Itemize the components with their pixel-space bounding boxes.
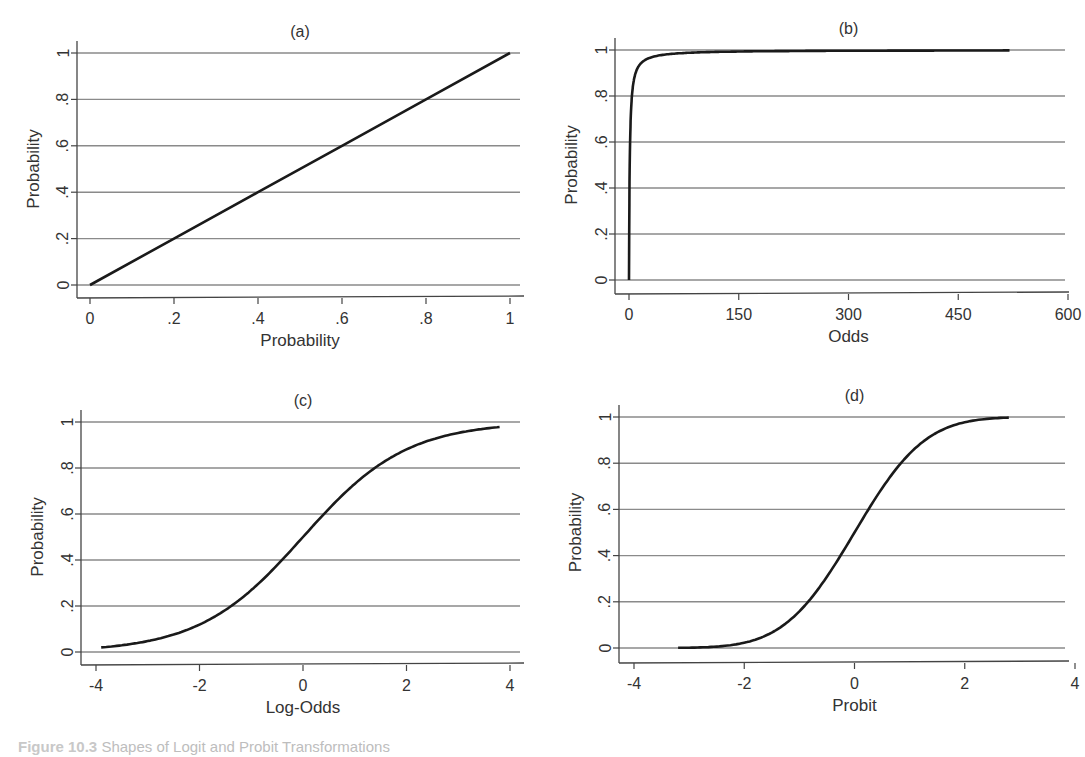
- x-tick-label: 0: [86, 310, 95, 327]
- x-tick-label: 0: [850, 675, 859, 692]
- x-axis: [615, 292, 1069, 294]
- x-tick-label: -4: [89, 677, 103, 694]
- x-axis-label: Probit: [832, 696, 877, 715]
- y-tick-label: .2: [55, 232, 72, 245]
- x-tick-label: 0: [625, 306, 634, 323]
- chart-svg: (d)0.2.4.6.81-4-2024ProbitProbability: [540, 380, 1085, 732]
- x-axis-label: Log-Odds: [266, 698, 341, 717]
- x-tick-label: 300: [835, 306, 862, 323]
- y-tick-label: 1: [59, 417, 76, 426]
- y-tick-label: .2: [593, 227, 610, 240]
- y-axis-label: Probability: [28, 497, 47, 577]
- panel-b: (b)0.2.4.6.810150300450600OddsProbabilit…: [540, 0, 1085, 372]
- y-axis-label: Probability: [566, 492, 585, 572]
- x-tick-label: 600: [1055, 306, 1082, 323]
- x-tick-label: 1: [506, 310, 515, 327]
- x-tick-label: 2: [402, 677, 411, 694]
- y-tick-label: 0: [593, 275, 610, 284]
- data-line: [90, 53, 510, 285]
- x-tick-label: 450: [945, 306, 972, 323]
- panel-title: (b): [839, 20, 859, 37]
- x-axis-label: Probability: [260, 331, 340, 350]
- y-tick-label: .6: [593, 135, 610, 148]
- data-line: [101, 427, 499, 647]
- panel-c: (c)0.2.4.6.81-4-2024Log-OddsProbability: [0, 380, 540, 732]
- panel-a: (a)0.2.4.6.810.2.4.6.81ProbabilityProbab…: [0, 0, 540, 372]
- x-tick-label: 4: [1071, 675, 1080, 692]
- x-tick-label: .6: [335, 310, 348, 327]
- figure-caption-text: Shapes of Logit and Probit Transformatio…: [101, 738, 390, 755]
- y-tick-label: 0: [55, 280, 72, 289]
- y-tick-label: .4: [597, 549, 614, 562]
- figure-caption: Figure 10.3 Shapes of Logit and Probit T…: [18, 738, 390, 755]
- x-tick-label: 150: [725, 306, 752, 323]
- x-axis: [77, 296, 524, 298]
- y-tick-label: .4: [55, 185, 72, 198]
- y-tick-label: 1: [55, 48, 72, 57]
- y-tick-label: 1: [597, 412, 614, 421]
- x-tick-label: -2: [737, 675, 751, 692]
- x-tick-label: 0: [299, 677, 308, 694]
- y-axis-label: Probability: [24, 129, 43, 209]
- y-tick-label: 0: [59, 647, 76, 656]
- panel-title: (c): [294, 392, 313, 409]
- x-tick-label: .4: [251, 310, 264, 327]
- y-axis-label: Probability: [562, 125, 581, 205]
- chart-svg: (c)0.2.4.6.81-4-2024Log-OddsProbability: [0, 380, 540, 732]
- x-tick-label: .8: [419, 310, 432, 327]
- y-tick-label: .6: [55, 139, 72, 152]
- y-tick-label: .4: [593, 181, 610, 194]
- y-tick-label: .2: [59, 599, 76, 612]
- x-axis: [619, 661, 1069, 663]
- y-tick-label: .4: [59, 553, 76, 566]
- x-tick-label: -4: [627, 675, 641, 692]
- y-tick-label: .6: [597, 503, 614, 516]
- y-tick-label: .8: [59, 461, 76, 474]
- x-tick-label: -2: [192, 677, 206, 694]
- figure-caption-label: Figure 10.3: [18, 738, 97, 755]
- y-tick-label: .8: [593, 89, 610, 102]
- data-line: [678, 418, 1009, 648]
- chart-svg: (a)0.2.4.6.810.2.4.6.81ProbabilityProbab…: [0, 0, 540, 372]
- panel-d: (d)0.2.4.6.81-4-2024ProbitProbability: [540, 380, 1085, 732]
- chart-svg: (b)0.2.4.6.810150300450600OddsProbabilit…: [540, 0, 1085, 372]
- y-tick-label: .6: [59, 507, 76, 520]
- y-tick-label: .2: [597, 595, 614, 608]
- x-tick-label: 4: [506, 677, 515, 694]
- y-tick-label: .8: [597, 456, 614, 469]
- x-tick-label: 2: [960, 675, 969, 692]
- panel-title: (d): [845, 387, 865, 404]
- y-tick-label: 1: [593, 45, 610, 54]
- y-tick-label: 0: [597, 643, 614, 652]
- data-line: [629, 50, 1010, 280]
- y-tick-label: .8: [55, 93, 72, 106]
- panel-title: (a): [290, 23, 310, 40]
- x-axis-label: Odds: [828, 327, 869, 346]
- x-axis: [81, 663, 524, 665]
- x-tick-label: .2: [167, 310, 180, 327]
